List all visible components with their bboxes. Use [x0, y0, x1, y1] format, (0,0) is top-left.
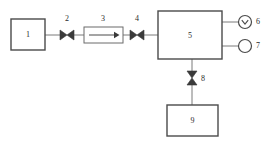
- component-3-label: 3: [101, 14, 105, 23]
- component-5-label: 5: [188, 31, 192, 40]
- component-7-outer-circle: [239, 40, 252, 53]
- component-6-label: 6: [256, 17, 260, 26]
- component-8-label: 8: [201, 74, 205, 83]
- component-8-valve[interactable]: 8: [187, 71, 205, 85]
- component-6-outer-circle: [239, 16, 252, 29]
- component-6-gauge[interactable]: 6: [239, 16, 261, 29]
- component-8-valve-bottom-triangle: [187, 78, 197, 85]
- component-1-vessel[interactable]: 1: [11, 19, 45, 50]
- component-2-valve-right-triangle: [67, 30, 74, 40]
- component-4-valve-left-triangle: [130, 30, 137, 40]
- diagram-canvas: 1 2 3 4 5: [0, 0, 275, 146]
- component-7-port[interactable]: 7: [239, 40, 261, 53]
- component-2-valve[interactable]: 2: [60, 14, 74, 40]
- component-9-vessel[interactable]: 9: [167, 105, 218, 136]
- component-5-vessel[interactable]: 5: [158, 11, 222, 59]
- component-7-label: 7: [256, 41, 260, 50]
- component-3-flowmeter[interactable]: 3: [84, 14, 123, 43]
- component-9-label: 9: [191, 116, 195, 125]
- component-2-valve-left-triangle: [60, 30, 67, 40]
- component-4-valve-right-triangle: [137, 30, 144, 40]
- component-2-label: 2: [65, 14, 69, 23]
- process-flow-diagram: 1 2 3 4 5: [0, 0, 275, 146]
- component-8-valve-top-triangle: [187, 71, 197, 78]
- component-1-label: 1: [26, 30, 30, 39]
- component-4-label: 4: [135, 14, 139, 23]
- component-4-valve[interactable]: 4: [130, 14, 144, 40]
